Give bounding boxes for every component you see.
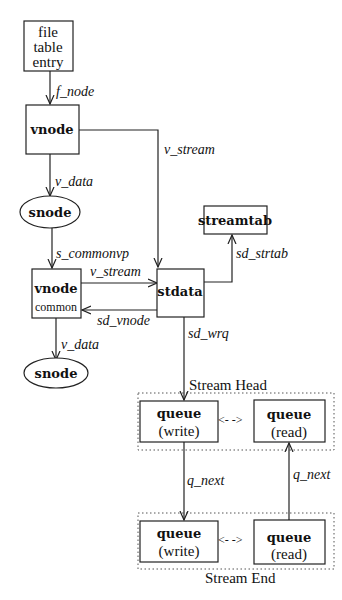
queue-end-write-title: queue	[157, 526, 202, 541]
vnode-label: vnode	[29, 122, 73, 137]
vnode-common-title: vnode	[33, 281, 77, 296]
label-v-data-top: v_data	[55, 174, 93, 189]
edge-sd-strtab	[204, 235, 232, 282]
link-head-queues: <- ->	[218, 413, 243, 427]
snode-bottom-label: snode	[35, 366, 78, 381]
label-v-stream-mid: v_stream	[90, 264, 141, 279]
node-queue-end-read: queue (read)	[254, 520, 325, 564]
label-sd-wrq: sd_wrq	[188, 326, 229, 341]
node-vnode: vnode	[26, 105, 79, 154]
node-snode-top: snode	[20, 196, 80, 228]
queue-head-read-sub: (read)	[271, 424, 307, 441]
label-v-stream-top: v_stream	[164, 142, 215, 157]
stream-end-label: Stream End	[205, 570, 276, 586]
node-queue-end-write: queue (write)	[140, 521, 218, 562]
node-snode-bottom: snode	[24, 358, 88, 388]
stdata-label: stdata	[157, 284, 203, 299]
node-vnode-common: vnode common	[32, 269, 81, 318]
streams-diagram: Stream Head Stream End f_node v_stream v…	[0, 0, 342, 600]
label-v-data-bottom: v_data	[61, 337, 99, 352]
queue-head-read-title: queue	[267, 407, 312, 422]
queue-end-read-sub: (read)	[271, 546, 307, 563]
node-streamtab: streamtab	[198, 206, 272, 234]
label-q-next-down: q_next	[187, 473, 225, 488]
queue-head-write-title: queue	[157, 406, 202, 421]
file-table-entry-line-3: entry	[33, 54, 64, 70]
label-s-commonvp: s_commonvp	[56, 246, 129, 261]
snode-top-label: snode	[29, 205, 72, 220]
link-end-queues: <- ->	[218, 533, 243, 547]
vnode-common-sub: common	[35, 300, 77, 314]
queue-head-write-sub: (write)	[159, 423, 200, 440]
stream-head-label: Stream Head	[189, 377, 267, 393]
queue-end-write-sub: (write)	[159, 543, 200, 560]
file-table-entry-line-1: file	[38, 24, 58, 40]
node-file-table-entry: file table entry	[24, 21, 73, 71]
label-sd-strtab: sd_strtab	[236, 246, 288, 261]
queue-end-read-title: queue	[267, 530, 312, 545]
node-queue-head-write: queue (write)	[140, 401, 218, 442]
label-f-node: f_node	[56, 84, 94, 99]
file-table-entry-line-2: table	[33, 39, 62, 55]
node-queue-head-read: queue (read)	[254, 400, 325, 442]
label-q-next-up: q_next	[293, 467, 331, 482]
label-sd-vnode: sd_vnode	[97, 313, 150, 328]
node-stdata: stdata	[157, 269, 204, 317]
streamtab-label: streamtab	[198, 213, 272, 228]
